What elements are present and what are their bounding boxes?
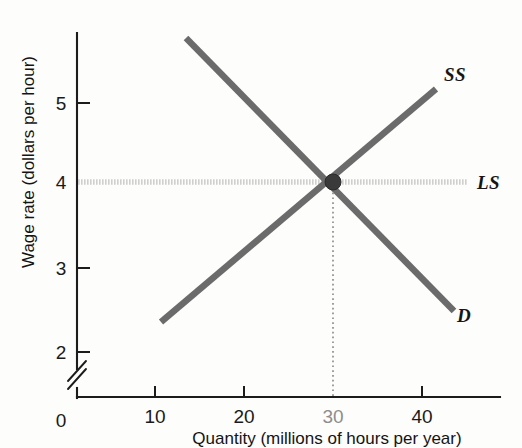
chart-figure: 5 4 3 2 0 10 20 30 40 Wage rate (dollars… (0, 0, 522, 448)
y-tick-label-4: 4 (56, 172, 67, 193)
equilibrium-point (325, 174, 341, 190)
x-tick-label-30: 30 (322, 406, 343, 427)
x-tick-label-10: 10 (144, 406, 165, 427)
curve-label-d: D (456, 305, 471, 326)
x-axis-title: Quantity (millions of hours per year) (192, 429, 461, 448)
y-tick-label-2: 2 (56, 342, 67, 363)
y-tick-marks (77, 103, 90, 352)
x-tick-label-20: 20 (233, 406, 254, 427)
y-axis-origin-label: 0 (56, 410, 67, 431)
y-tick-label-3: 3 (56, 258, 67, 279)
chart-canvas: 5 4 3 2 0 10 20 30 40 Wage rate (dollars… (0, 0, 522, 448)
curve-label-ss: SS (444, 64, 466, 85)
y-axis-title: Wage rate (dollars per hour) (19, 56, 38, 268)
curve-ss (161, 89, 436, 322)
y-tick-label-5: 5 (56, 93, 67, 114)
x-tick-label-40: 40 (411, 406, 432, 427)
curve-label-ls: LS (476, 172, 500, 193)
x-tick-marks (155, 386, 422, 397)
